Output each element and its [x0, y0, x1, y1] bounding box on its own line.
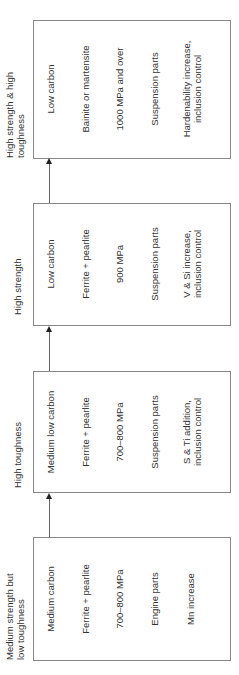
measure-line: inclusion control — [192, 230, 203, 298]
progression-arrow — [49, 332, 50, 372]
metallurgical-measure: S & Ti addition, inclusion control — [181, 398, 203, 466]
metallurgical-measure: Mn increase — [185, 573, 196, 625]
measure-line: inclusion control — [192, 41, 203, 138]
application: Suspension parts — [149, 52, 160, 125]
metallurgical-measure: V & Si increase, inclusion control — [181, 230, 203, 298]
stage-label-line: High strength — [12, 258, 23, 315]
stage-label-line: High strength & high — [4, 72, 15, 158]
progression-arrow — [49, 499, 50, 537]
arrow-head-icon — [46, 326, 52, 332]
strength-level: 700–800 MPa — [114, 402, 125, 461]
stage-box-medium-strength-low-toughness — [33, 537, 231, 661]
microstructure: Bainite or martensite — [80, 45, 91, 132]
application: Suspension parts — [149, 227, 160, 300]
strength-level: 700–800 MPa — [114, 569, 125, 628]
measure-line: inclusion control — [192, 398, 203, 466]
stage-label-high-strength: High strength — [12, 258, 23, 315]
stage-label-line: Medium strength but — [4, 573, 15, 660]
carbon-content: Low carbon — [45, 64, 56, 113]
carbon-content: Low carbon — [45, 239, 56, 288]
application: Engine parts — [149, 572, 160, 625]
measure-line: V & Si increase, — [181, 230, 192, 298]
metallurgical-measure: Hardenability increase, inclusion contro… — [181, 41, 203, 138]
arrow-head-icon — [46, 158, 52, 164]
carbon-content: Medium low carbon — [45, 391, 56, 473]
measure-line: S & Ti addition, — [181, 398, 192, 466]
measure-line: Mn increase — [185, 573, 196, 625]
arrow-head-icon — [46, 493, 52, 499]
strength-level: 1000 MPa and over — [114, 48, 125, 131]
carbon-content: Medium carbon — [45, 566, 56, 631]
strength-level: 900 MPa — [114, 245, 125, 283]
measure-line: Hardenability increase, — [181, 41, 192, 138]
stage-label-high-toughness: High toughness — [12, 422, 23, 488]
stage-label-medium-strength-low-toughness: Medium strength but low toughness — [4, 573, 26, 660]
application: Suspension parts — [149, 395, 160, 468]
microstructure: Ferrite + pearlite — [80, 397, 91, 466]
microstructure: Ferrite + pearlite — [80, 229, 91, 298]
stage-label-high-strength-high-toughness: High strength & high toughness — [4, 72, 26, 158]
stage-label-line: low toughness — [15, 573, 26, 660]
stage-label-line: toughness — [15, 72, 26, 158]
stage-label-line: High toughness — [12, 422, 23, 488]
microstructure: Ferrite + pearlite — [80, 564, 91, 633]
progression-arrow — [49, 164, 50, 203]
